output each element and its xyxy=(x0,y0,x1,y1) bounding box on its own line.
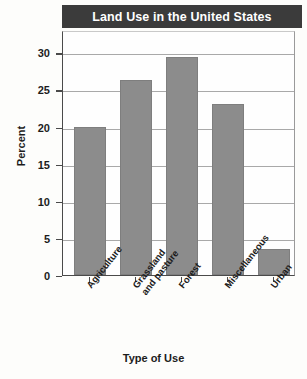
bar xyxy=(74,127,106,275)
gridline xyxy=(63,54,294,55)
y-tick-label: 15 xyxy=(24,159,50,171)
bar xyxy=(166,57,198,275)
y-tick-label: 10 xyxy=(24,196,50,208)
y-tick-label: 5 xyxy=(24,233,50,245)
bar xyxy=(212,104,244,275)
y-tick-mark xyxy=(56,276,62,277)
bar xyxy=(120,80,152,275)
y-tick-label: 0 xyxy=(24,270,50,282)
x-axis-title: Type of Use xyxy=(0,352,307,364)
chart-figure: Land Use in the United States Percent 05… xyxy=(0,0,307,379)
chart-title: Land Use in the United States xyxy=(92,10,271,24)
y-tick-label: 30 xyxy=(24,47,50,59)
chart-title-banner: Land Use in the United States xyxy=(62,5,302,28)
y-tick-label: 25 xyxy=(24,84,50,96)
y-tick-label: 20 xyxy=(24,122,50,134)
